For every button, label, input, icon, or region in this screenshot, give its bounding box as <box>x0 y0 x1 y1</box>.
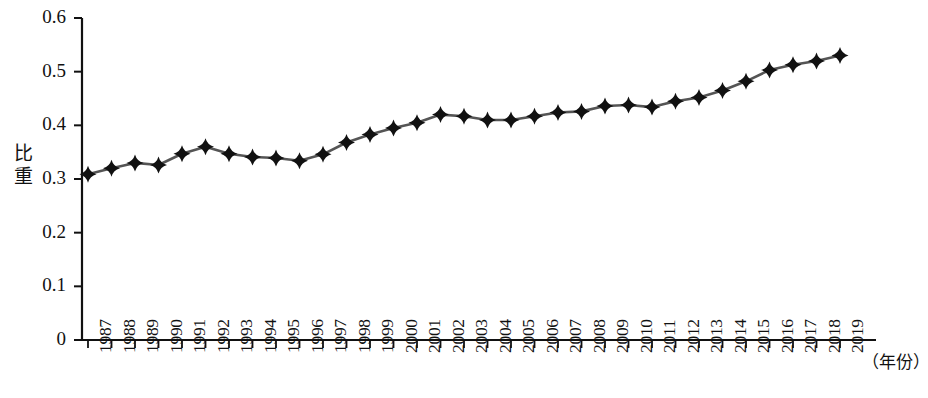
data-point-marker <box>103 160 120 177</box>
data-point-marker <box>620 96 637 113</box>
data-point-marker <box>691 89 708 106</box>
data-point-marker <box>197 138 214 155</box>
data-point-marker <box>761 62 778 79</box>
data-point-marker <box>244 148 261 165</box>
data-point-marker <box>409 114 426 131</box>
data-point-marker <box>738 73 755 90</box>
data-point-marker <box>808 52 825 69</box>
data-point-marker <box>479 111 496 128</box>
data-point-marker <box>526 108 543 125</box>
data-point-marker <box>338 134 355 151</box>
data-point-marker <box>385 120 402 137</box>
x-axis-ticks <box>88 340 840 348</box>
data-point-marker <box>550 104 567 121</box>
data-point-marker <box>150 157 167 174</box>
data-point-marker <box>291 152 308 169</box>
line-chart: 比 重 （年份） 00.10.20.30.40.50.6 19871988198… <box>0 0 928 398</box>
series-markers <box>80 47 849 183</box>
data-point-marker <box>832 47 849 64</box>
data-point-marker <box>362 126 379 143</box>
axes <box>82 18 876 340</box>
data-point-marker <box>644 99 661 116</box>
data-point-marker <box>503 111 520 128</box>
data-point-marker <box>597 98 614 115</box>
data-point-marker <box>127 154 144 171</box>
plot-area <box>0 0 928 398</box>
data-point-marker <box>667 93 684 110</box>
data-point-marker <box>456 108 473 125</box>
data-point-marker <box>573 103 590 120</box>
data-point-marker <box>221 145 238 162</box>
data-point-marker <box>785 56 802 73</box>
data-point-marker <box>714 82 731 99</box>
data-point-marker <box>432 106 449 123</box>
data-point-marker <box>174 145 191 162</box>
data-point-marker <box>268 150 285 167</box>
y-axis-ticks <box>74 18 82 340</box>
data-point-marker <box>315 146 332 163</box>
